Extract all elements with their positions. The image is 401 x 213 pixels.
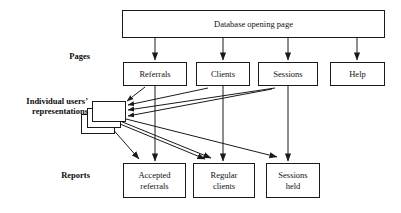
node-page-help[interactable]: Help xyxy=(330,62,385,86)
node-page-referrals-label: Referrals xyxy=(139,69,170,79)
edge-sessions-alt-to-users xyxy=(128,89,272,116)
node-page-help-label: Help xyxy=(349,69,366,79)
user-representation-box-front[interactable] xyxy=(92,101,126,122)
diagram-canvas: Pages Individual users’ representations … xyxy=(0,0,401,213)
edge-sessions-to-users xyxy=(128,88,275,110)
edge-users-to-held xyxy=(122,118,277,157)
edge-users-to-held-alt xyxy=(120,124,205,159)
node-report-regular-clients[interactable]: Regular clients xyxy=(193,163,255,198)
node-page-clients[interactable]: Clients xyxy=(196,62,250,86)
node-page-sessions[interactable]: Sessions xyxy=(258,62,318,86)
node-report-sessions-held-line1: Sessions xyxy=(278,170,307,180)
edge-referrals-to-users xyxy=(127,87,145,101)
node-report-accepted-referrals-line2: referrals xyxy=(138,181,170,191)
node-database-opening-page[interactable]: Database opening page xyxy=(122,10,385,38)
row-label-pages: Pages xyxy=(14,51,90,61)
node-page-clients-label: Clients xyxy=(211,69,235,79)
row-label-individual-users: Individual users’ representations xyxy=(2,96,88,117)
node-database-opening-page-label: Database opening page xyxy=(214,19,293,29)
node-page-referrals[interactable]: Referrals xyxy=(123,62,187,86)
node-report-sessions-held-line2: held xyxy=(278,181,307,191)
node-report-sessions-held[interactable]: Sessions held xyxy=(266,163,320,198)
node-report-accepted-referrals[interactable]: Accepted referrals xyxy=(123,163,186,198)
node-report-regular-clients-line1: Regular xyxy=(211,170,238,180)
node-page-sessions-label: Sessions xyxy=(273,69,302,79)
node-report-accepted-referrals-line1: Accepted xyxy=(138,170,170,180)
row-label-reports: Reports xyxy=(20,170,90,180)
node-report-regular-clients-line2: clients xyxy=(211,181,238,191)
